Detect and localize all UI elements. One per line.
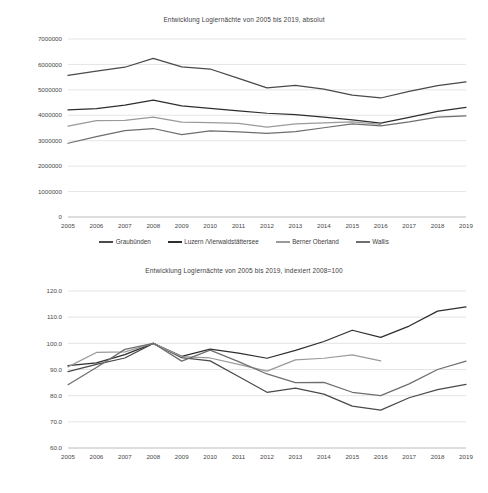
x-axis-tick-label: 2010 bbox=[203, 222, 217, 229]
x-axis-tick-label: 2015 bbox=[345, 453, 359, 460]
x-axis-tick-label: 2008 bbox=[146, 453, 160, 460]
y-axis-tick-label: 7000000 bbox=[38, 35, 63, 42]
plot-area-absolut: 0100000020000003000000400000050000006000… bbox=[0, 0, 488, 237]
legend-swatch-graubuenden bbox=[99, 241, 113, 243]
legend-label-graubuenden: Graubünden bbox=[116, 239, 151, 245]
y-axis-tick-label: 2000000 bbox=[38, 162, 63, 169]
x-axis-tick-label: 2010 bbox=[203, 453, 217, 460]
chart-indexiert: Entwicklung Logiernächte von 2005 bis 20… bbox=[0, 256, 488, 493]
x-axis-tick-label: 2015 bbox=[345, 222, 359, 229]
y-axis-tick-label: 0 bbox=[59, 213, 63, 220]
x-axis-tick-label: 2008 bbox=[146, 222, 160, 229]
legend-swatch-wallis bbox=[356, 241, 370, 243]
x-axis-tick-label: 2016 bbox=[374, 453, 388, 460]
x-axis-tick-label: 2009 bbox=[175, 453, 189, 460]
y-axis-tick-label: 4000000 bbox=[38, 111, 63, 118]
legend-item-luzern[interactable]: Luzern /Vierwaldstättersee bbox=[168, 239, 259, 245]
y-axis-tick-label: 6000000 bbox=[38, 61, 63, 68]
x-axis-tick-label: 2012 bbox=[260, 453, 274, 460]
x-axis-tick-label: 2013 bbox=[289, 453, 303, 460]
x-axis-tick-label: 2005 bbox=[61, 222, 75, 229]
y-axis-tick-label: 70.0 bbox=[50, 418, 63, 425]
x-axis-tick-label: 2007 bbox=[118, 222, 132, 229]
y-axis-tick-label: 110.0 bbox=[47, 313, 63, 320]
legend-swatch-luzern bbox=[168, 241, 182, 243]
x-axis-tick-label: 2014 bbox=[317, 222, 331, 229]
x-axis-tick-label: 2016 bbox=[374, 222, 388, 229]
y-axis-tick-label: 5000000 bbox=[38, 86, 63, 93]
plot-area-indexiert: 60.070.080.090.0100.0110.0120.0200520062… bbox=[0, 256, 488, 493]
x-axis-tick-label: 2005 bbox=[61, 453, 75, 460]
x-axis-tick-label: 2007 bbox=[118, 453, 132, 460]
legend-item-graubuenden[interactable]: Graubünden bbox=[99, 239, 151, 245]
x-axis-tick-label: 2018 bbox=[431, 222, 445, 229]
x-axis-tick-label: 2014 bbox=[317, 453, 331, 460]
x-axis-tick-label: 2019 bbox=[459, 222, 473, 229]
y-axis-tick-label: 90.0 bbox=[50, 366, 63, 373]
x-axis-tick-label: 2006 bbox=[90, 453, 104, 460]
y-axis-tick-label: 80.0 bbox=[50, 392, 63, 399]
x-axis-tick-label: 2019 bbox=[459, 453, 473, 460]
y-axis-tick-label: 60.0 bbox=[50, 444, 63, 451]
x-axis-tick-label: 2017 bbox=[402, 453, 416, 460]
y-axis-tick-label: 1000000 bbox=[38, 188, 63, 195]
legend-label-berner-oberland: Berner Oberland bbox=[292, 239, 339, 245]
y-axis-tick-label: 100.0 bbox=[47, 340, 63, 347]
legend-label-wallis: Wallis bbox=[372, 239, 389, 245]
x-axis-tick-label: 2006 bbox=[90, 222, 104, 229]
x-axis-tick-label: 2012 bbox=[260, 222, 274, 229]
x-axis-tick-label: 2011 bbox=[232, 453, 246, 460]
x-axis-tick-label: 2018 bbox=[431, 453, 445, 460]
legend-label-luzern: Luzern /Vierwaldstättersee bbox=[184, 239, 258, 245]
chart-absolut: Entwicklung Logiernächte von 2005 bis 20… bbox=[0, 0, 488, 256]
legend-absolut: Graubünden Luzern /Vierwaldstättersee Be… bbox=[0, 239, 488, 245]
y-axis-tick-label: 3000000 bbox=[38, 137, 63, 144]
legend-item-wallis[interactable]: Wallis bbox=[356, 239, 389, 245]
y-axis-tick-label: 120.0 bbox=[47, 287, 63, 294]
x-axis-tick-label: 2013 bbox=[289, 222, 303, 229]
legend-item-berner-oberland[interactable]: Berner Oberland bbox=[276, 239, 339, 245]
legend-swatch-berner-oberland bbox=[276, 241, 290, 243]
x-axis-tick-label: 2011 bbox=[232, 222, 246, 229]
x-axis-tick-label: 2009 bbox=[175, 222, 189, 229]
x-axis-tick-label: 2017 bbox=[402, 222, 416, 229]
